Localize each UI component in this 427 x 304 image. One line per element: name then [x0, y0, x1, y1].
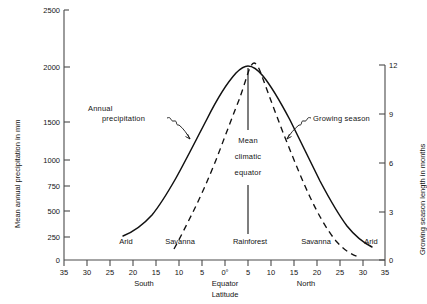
y-axis-left-title: Mean annual precipitation in mm: [13, 120, 22, 228]
xtick-20n: 20: [313, 268, 321, 277]
xtick-15s: 15: [152, 268, 160, 277]
ytick-right-0: 0: [389, 256, 405, 265]
zone-label-arid-south: Arid: [119, 237, 132, 246]
zone-label-savanna-north: Savanna: [301, 237, 331, 246]
ytick-right-6: 6: [389, 159, 405, 168]
annotation-mean-climatic-equator-line2: climatic: [235, 152, 262, 161]
xtick-25n: 25: [336, 268, 344, 277]
ytick-left-500: 500: [22, 207, 60, 216]
ytick-left-750: 750: [22, 182, 60, 191]
x-label-north: North: [297, 279, 315, 288]
zone-label-arid-north: Arid: [364, 237, 377, 246]
annotation-mean-climatic-equator-line1: Mean: [238, 136, 258, 145]
x-label-south: South: [134, 279, 154, 288]
annual-precipitation-leader: [167, 118, 190, 139]
series-growing-season: [174, 63, 359, 257]
annotation-growing-season: Growing season: [313, 114, 370, 123]
xtick-35s: 35: [60, 268, 68, 277]
x-axis-title: Latitude: [212, 290, 239, 299]
ytick-right-9: 9: [389, 110, 405, 119]
annotation-annual-precipitation-line1: Annual: [88, 104, 113, 113]
ytick-right-3: 3: [389, 208, 405, 217]
xtick-25s: 25: [106, 268, 114, 277]
xtick-5s: 5: [200, 268, 204, 277]
bottom-axis: [64, 260, 385, 266]
zone-label-savanna-south: Savanna: [165, 237, 195, 246]
xtick-10s: 10: [175, 268, 183, 277]
xtick-20s: 20: [129, 268, 137, 277]
ytick-left-0: 0: [22, 256, 60, 265]
xtick-10n: 10: [267, 268, 275, 277]
ytick-left-2500: 2500: [22, 6, 60, 15]
annotation-annual-precipitation-line2: precipitation: [102, 114, 145, 123]
ytick-left-250: 250: [22, 233, 60, 242]
left-axis: [64, 10, 70, 260]
y-axis-right-title: Growing season length in months: [418, 144, 427, 255]
right-axis: [379, 65, 385, 260]
ytick-left-1000: 1000: [22, 156, 60, 165]
ytick-left-2000: 2000: [22, 63, 60, 72]
xtick-5n: 5: [246, 268, 250, 277]
xtick-0: 0°: [221, 268, 228, 277]
x-label-equator: Equator: [212, 279, 238, 288]
ytick-left-1500: 1500: [22, 118, 60, 127]
xtick-15n: 15: [290, 268, 298, 277]
ytick-right-12: 12: [389, 61, 405, 70]
xtick-35n: 35: [381, 268, 389, 277]
xtick-30s: 30: [83, 268, 91, 277]
zone-label-rainforest: Rainforest: [233, 237, 267, 246]
xtick-30n: 30: [359, 268, 367, 277]
annotation-mean-climatic-equator-line3: equator: [235, 168, 262, 177]
